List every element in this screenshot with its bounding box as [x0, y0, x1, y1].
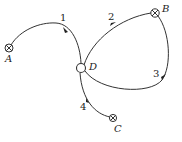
node-c	[109, 114, 116, 121]
path-2-arrow-icon	[110, 22, 116, 26]
path-3-arrow-icon	[161, 74, 166, 80]
node-a-label: A	[4, 53, 12, 64]
node-b	[151, 9, 159, 17]
path-3-label: 3	[153, 68, 159, 79]
path-2	[84, 13, 151, 65]
path-2-label: 2	[108, 11, 114, 22]
node-d-label: D	[88, 61, 97, 72]
path-4-label: 4	[80, 101, 86, 112]
node-d	[77, 64, 86, 73]
flow-diagram: A B C D 1 2 3 4	[0, 0, 182, 142]
node-a	[5, 44, 13, 52]
node-c-label: C	[114, 123, 122, 134]
path-1-label: 1	[60, 12, 66, 23]
path-1	[11, 23, 81, 63]
node-b-label: B	[161, 3, 169, 14]
